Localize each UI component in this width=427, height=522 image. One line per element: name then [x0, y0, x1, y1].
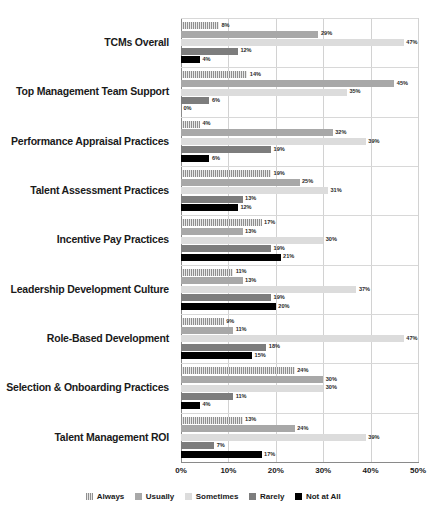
bar-value-label: 11%: [236, 269, 247, 275]
bar-row: 12%: [181, 48, 252, 55]
bar-sometimes: [181, 385, 323, 392]
category-label-row: Leadership Development Culture: [0, 265, 178, 314]
category-label: Talent Assessment Practices: [30, 185, 169, 197]
bar-value-label: 30%: [326, 377, 337, 383]
bar-row: 17%: [181, 219, 275, 226]
bar-row: 45%: [181, 80, 408, 87]
bar-always: [181, 417, 243, 424]
bar-value-label: 15%: [255, 353, 266, 359]
bar-not-at-all: [181, 204, 238, 211]
category-label-row: Selection & Onboarding Practices: [0, 363, 178, 412]
category-label: TCMs Overall: [104, 37, 169, 49]
bar-value-label: 4%: [202, 57, 210, 63]
bar-value-label: 47%: [406, 40, 417, 46]
bar-row: 4%: [181, 56, 211, 63]
legend-swatch-icon: [86, 493, 93, 500]
bar-not-at-all: [181, 155, 209, 162]
category-label: Leadership Development Culture: [10, 284, 169, 296]
bar-sometimes: [181, 138, 366, 145]
bar-always: [181, 22, 219, 29]
bar-value-label: 30%: [326, 385, 337, 391]
bar-row: 21%: [181, 254, 294, 261]
bar-value-label: 39%: [368, 435, 379, 441]
bar-rarely: [181, 294, 271, 301]
bar-value-label: 8%: [221, 23, 229, 29]
bar-usually: [181, 277, 243, 284]
bar-value-label: 35%: [349, 89, 360, 95]
bar-row: 13%: [181, 277, 256, 284]
category-label-row: Top Management Team Support: [0, 67, 178, 116]
bar-row: 12%: [181, 204, 252, 211]
bar-value-label: 31%: [330, 188, 341, 194]
gridline-50: [418, 18, 419, 462]
bar-usually: [181, 31, 318, 38]
bar-always: [181, 121, 200, 128]
legend-item-usually[interactable]: Usually: [135, 492, 174, 501]
category-label: Performance Appraisal Practices: [11, 136, 169, 148]
bar-value-label: 17%: [264, 452, 275, 458]
plot-area: 8%29%47%12%4%14%45%35%6%0%4%32%39%19%6%1…: [181, 18, 418, 462]
category-label: Incentive Pay Practices: [57, 234, 169, 246]
legend-label: Sometimes: [196, 492, 239, 501]
bar-row: 47%: [181, 335, 417, 342]
bar-row: 25%: [181, 179, 313, 186]
bar-row: 18%: [181, 344, 280, 351]
bar-not-at-all: [181, 352, 252, 359]
legend-item-rarely[interactable]: Rarely: [249, 492, 284, 501]
bar-row: 6%: [181, 97, 220, 104]
legend-label: Usually: [146, 492, 174, 501]
bar-value-label: 19%: [274, 295, 285, 301]
bar-row: 9%: [181, 318, 234, 325]
x-tick-label: 40%: [363, 466, 379, 475]
bar-usually: [181, 179, 300, 186]
bar-row: 17%: [181, 451, 275, 458]
bar-row: 11%: [181, 393, 247, 400]
bar-not-at-all: [181, 254, 281, 261]
bar-value-label: 13%: [245, 417, 256, 423]
bar-value-label: 0%: [184, 106, 192, 112]
x-axis-line: [181, 462, 419, 463]
bar-row: 4%: [181, 402, 211, 409]
bar-value-label: 6%: [212, 156, 220, 162]
legend-item-always[interactable]: Always: [86, 492, 124, 501]
legend-item-sometimes[interactable]: Sometimes: [185, 492, 238, 501]
bar-value-label: 19%: [274, 246, 285, 252]
bar-row: 8%: [181, 22, 230, 29]
bar-value-label: 7%: [217, 443, 225, 449]
bar-value-label: 30%: [326, 237, 337, 243]
bar-sometimes: [181, 39, 404, 46]
x-tick-label: 50%: [410, 466, 426, 475]
bar-row: 13%: [181, 417, 256, 424]
bar-value-label: 17%: [264, 220, 275, 226]
bar-value-label: 4%: [202, 402, 210, 408]
legend-swatch-icon: [295, 493, 302, 500]
bar-not-at-all: [181, 451, 262, 458]
legend-swatch-icon: [185, 493, 192, 500]
bar-value-label: 24%: [297, 426, 308, 432]
bar-row: 6%: [181, 155, 220, 162]
chart-legend: AlwaysUsuallySometimesRarelyNot at All: [0, 492, 427, 501]
bar-row: 30%: [181, 237, 337, 244]
bar-value-label: 13%: [245, 196, 256, 202]
bar-value-label: 20%: [278, 304, 289, 310]
category-label: Top Management Team Support: [16, 86, 169, 98]
bar-value-label: 4%: [202, 121, 210, 127]
category-label-row: Role-Based Development: [0, 314, 178, 363]
x-tick-label: 30%: [315, 466, 331, 475]
bar-not-at-all: [181, 402, 200, 409]
legend-item-not-at-all[interactable]: Not at All: [295, 492, 340, 501]
bar-row: 11%: [181, 269, 247, 276]
bar-row: 19%: [181, 146, 285, 153]
bar-value-label: 45%: [397, 81, 408, 87]
bar-value-label: 13%: [245, 229, 256, 235]
bar-row: 39%: [181, 434, 380, 441]
bar-value-label: 12%: [240, 205, 251, 211]
bar-always: [181, 318, 224, 325]
bar-row: 24%: [181, 367, 308, 374]
x-tick-label: 10%: [220, 466, 236, 475]
bar-always: [181, 269, 233, 276]
bar-rarely: [181, 393, 233, 400]
bar-usually: [181, 376, 323, 383]
bar-row: 35%: [181, 89, 361, 96]
bar-value-label: 24%: [297, 368, 308, 374]
